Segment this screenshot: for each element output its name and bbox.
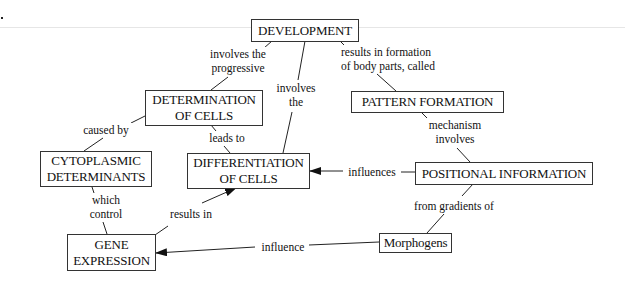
line-determination-to-causedby	[131, 116, 145, 123]
arrow-resultsin-to-differentiation	[202, 188, 236, 203]
label-leads-to: leads to	[203, 131, 251, 145]
line-results-to-pattern	[377, 74, 396, 91]
label-which-control: which control	[85, 193, 127, 221]
label-results-in: results in	[163, 207, 219, 221]
node-development: DEVELOPMENT	[251, 19, 359, 42]
line-gene-to-resultsin	[155, 226, 168, 235]
line-positional-to-gradients	[462, 184, 473, 196]
line-morphogens-to-influence	[309, 242, 379, 245]
node-differentiation-of-cells: DIFFERENTIATION OF CELLS	[187, 153, 310, 189]
label-involves-the: involves the	[272, 81, 320, 109]
node-morphogens: Morphogens	[379, 233, 452, 253]
node-gene-expression: GENE EXPRESSION	[67, 234, 156, 271]
line-leadsto-to-differentiation	[224, 146, 230, 153]
label-involves-the-progressive: involves the progressive	[196, 47, 280, 75]
label-results-in-formation: results in formation of body parts, call…	[340, 45, 452, 73]
label-mechanism-involves: mechanism involves	[423, 118, 487, 146]
label-caused-by: caused by	[76, 123, 136, 137]
node-positional-information: POSITIONAL INFORMATION	[415, 162, 593, 185]
line-gradients-to-morphogens	[427, 214, 444, 233]
concept-map-canvas: DEVELOPMENT DETERMINATION OF CELLS PATTE…	[0, 0, 625, 283]
line-control-to-gene	[103, 222, 107, 234]
node-pattern-formation: PATTERN FORMATION	[351, 91, 504, 113]
label-influence: influence	[257, 240, 309, 254]
node-determination-of-cells: DETERMINATION OF CELLS	[145, 90, 263, 126]
arrow-influence-to-gene	[156, 247, 255, 253]
line-mechanism-to-positional	[457, 148, 470, 162]
line-involves-to-differentiation	[283, 112, 292, 153]
line-dev-to-involves	[298, 41, 305, 80]
line-progressive-to-determination	[211, 77, 228, 90]
label-from-gradients-of: from gradients of	[410, 199, 498, 213]
label-influences: influences	[343, 165, 401, 179]
line-causedby-to-cytoplasmic	[84, 138, 103, 151]
node-cytoplasmic-determinants: CYTOPLASMIC DETERMINANTS	[40, 151, 152, 187]
